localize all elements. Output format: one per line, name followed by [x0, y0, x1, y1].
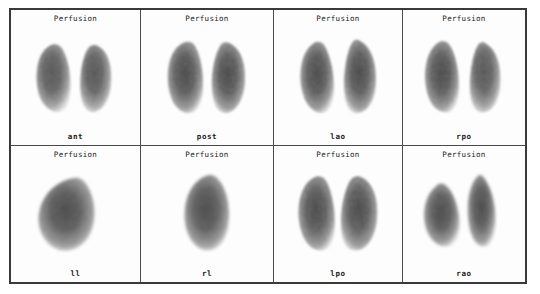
panel-view-label: rao — [403, 269, 525, 278]
panel-title: Perfusion — [403, 150, 525, 159]
panel-title: Perfusion — [274, 14, 402, 23]
scintigram-image-rpo — [403, 24, 525, 130]
scintigram-image-lao — [274, 24, 402, 130]
scan-panel-rpo[interactable]: Perfusion rpo — [403, 10, 525, 146]
scintigram-image-ll — [11, 160, 140, 267]
panel-view-label: lao — [274, 132, 402, 141]
panel-view-label: post — [141, 132, 273, 141]
scintigram-image-rl — [141, 160, 273, 267]
panel-title: Perfusion — [11, 150, 140, 159]
scintigram-image-post — [141, 24, 273, 130]
panel-title: Perfusion — [403, 14, 525, 23]
panel-view-label: ant — [11, 132, 140, 141]
scan-panel-lpo[interactable]: Perfusion lpo — [274, 146, 403, 282]
panel-view-label: ll — [11, 269, 140, 278]
scintigram-image-rao — [403, 160, 525, 267]
scan-panel-rl[interactable]: Perfusion rl — [141, 146, 274, 282]
scintigram-image-lpo — [274, 160, 402, 267]
panel-title: Perfusion — [141, 150, 273, 159]
scan-panel-rao[interactable]: Perfusion rao — [403, 146, 525, 282]
scintigram-image-ant — [11, 24, 140, 130]
panel-view-label: rpo — [403, 132, 525, 141]
scan-panel-ll[interactable]: Perfusion ll — [11, 146, 141, 282]
scan-panel-ant[interactable]: Perfusion ant — [11, 10, 141, 146]
scan-sheet: Perfusion ant Perfusion — [0, 0, 540, 294]
scan-panel-lao[interactable]: Perfusion lao — [274, 10, 403, 146]
panel-title: Perfusion — [141, 14, 273, 23]
panel-title: Perfusion — [11, 14, 140, 23]
panel-view-label: lpo — [274, 269, 402, 278]
panel-view-label: rl — [141, 269, 273, 278]
panel-grid: Perfusion ant Perfusion — [9, 8, 527, 284]
scan-panel-post[interactable]: Perfusion post — [141, 10, 274, 146]
panel-title: Perfusion — [274, 150, 402, 159]
